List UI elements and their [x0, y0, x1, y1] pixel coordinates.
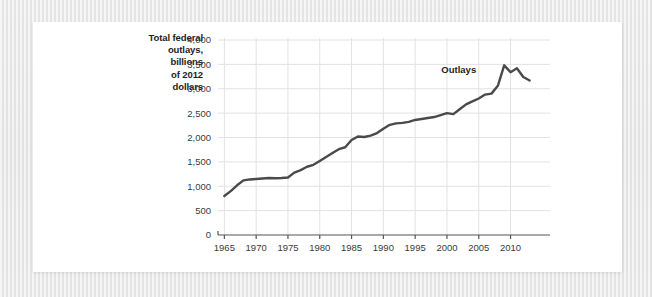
x-tick-1965: 1965: [214, 242, 235, 253]
grid-lines: [218, 38, 550, 235]
y-tick-1,500: 1,500: [187, 156, 211, 167]
x-tick-2010: 2010: [500, 242, 521, 253]
line-chart: 05001,0001,5002,0002,5003,0003,5004,000 …: [33, 22, 622, 272]
outlays-series-line: [224, 65, 529, 196]
x-tick-1990: 1990: [373, 242, 394, 253]
y-axis-tick-labels: 05001,0001,5002,0002,5003,0003,5004,000: [187, 34, 211, 240]
x-tick-2000: 2000: [436, 242, 457, 253]
y-tick-1,000: 1,000: [187, 181, 211, 192]
y-tick-3,000: 3,000: [187, 83, 211, 94]
figure-card: Total federaloutlays,billionsof 2012doll…: [33, 22, 622, 272]
y-tick-500: 500: [195, 205, 211, 216]
x-tick-1995: 1995: [405, 242, 426, 253]
x-axis-line: [218, 231, 550, 239]
x-tick-1970: 1970: [246, 242, 267, 253]
y-tick-3,500: 3,500: [187, 59, 211, 70]
x-tick-1975: 1975: [277, 242, 298, 253]
x-tick-1980: 1980: [309, 242, 330, 253]
x-tick-2005: 2005: [468, 242, 489, 253]
annotation-outlays: Outlays: [441, 64, 476, 75]
y-tick-2,500: 2,500: [187, 108, 211, 119]
x-axis-tick-labels: 1965197019751980198519901995200020052010: [214, 242, 521, 253]
y-tick-4,000: 4,000: [187, 34, 211, 45]
series-path-outlays: [224, 65, 529, 196]
x-tick-1985: 1985: [341, 242, 362, 253]
series-annotation-outlays: Outlays: [441, 64, 476, 75]
y-tick-2,000: 2,000: [187, 132, 211, 143]
y-tick-0: 0: [206, 229, 211, 240]
